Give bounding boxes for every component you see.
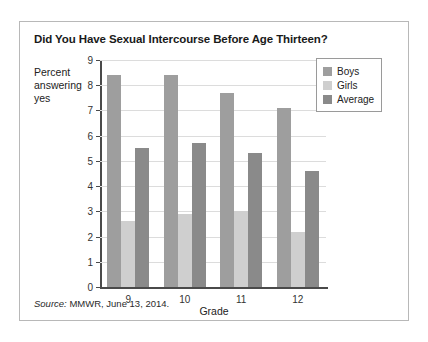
bar-average-grade-11 <box>248 153 262 287</box>
legend-label: Boys <box>337 66 359 77</box>
chart-figure-panel: Did You Have Sexual Intercourse Before A… <box>19 21 409 321</box>
y-tick-label: 3 <box>87 206 93 217</box>
source-label: Source: <box>34 298 67 309</box>
bar-boys-grade-10 <box>164 75 178 287</box>
bar-group: 9 <box>100 60 157 287</box>
bar-girls-grade-12 <box>291 232 305 287</box>
legend-label: Girls <box>337 80 358 91</box>
bar-boys-grade-12 <box>277 108 291 287</box>
bar-average-grade-12 <box>305 171 319 287</box>
bar-average-grade-9 <box>135 148 149 287</box>
bar-girls-grade-9 <box>121 221 135 287</box>
chart-legend: BoysGirlsAverage <box>316 58 382 112</box>
bar-group-bars <box>157 60 214 287</box>
y-tick-label: 0 <box>87 282 93 293</box>
bar-group-bars <box>213 60 270 287</box>
bar-average-grade-10 <box>192 143 206 287</box>
gridline <box>100 287 326 288</box>
bar-group: 11 <box>213 60 270 287</box>
x-tick-label: 12 <box>292 294 303 305</box>
legend-item-girls: Girls <box>323 78 374 92</box>
legend-label: Average <box>337 94 374 105</box>
plot-area: 0123456789 9101112 <box>100 60 326 287</box>
source-note: Source: MMWR, June 13, 2014. <box>34 298 169 309</box>
legend-swatch-icon <box>323 67 332 76</box>
x-tick-label: 11 <box>236 294 246 305</box>
bar-boys-grade-11 <box>220 93 234 287</box>
y-tick-label: 1 <box>87 256 93 267</box>
legend-swatch-icon <box>323 81 332 90</box>
y-tick-mark <box>96 287 100 288</box>
source-text: MMWR, June 13, 2014. <box>67 298 169 309</box>
x-tick-label: 10 <box>179 294 190 305</box>
legend-item-average: Average <box>323 92 374 106</box>
legend-item-boys: Boys <box>323 64 374 78</box>
bar-group-bars <box>100 60 157 287</box>
bar-boys-grade-9 <box>107 75 121 287</box>
y-tick-label: 4 <box>87 181 93 192</box>
chart-title: Did You Have Sexual Intercourse Before A… <box>34 33 328 45</box>
y-tick-label: 8 <box>87 80 93 91</box>
legend-swatch-icon <box>323 95 332 104</box>
y-tick-label: 7 <box>87 105 93 116</box>
y-tick-label: 6 <box>87 130 93 141</box>
y-tick-label: 2 <box>87 231 93 242</box>
bar-girls-grade-10 <box>178 214 192 287</box>
y-tick-label: 5 <box>87 155 93 166</box>
bar-girls-grade-11 <box>234 211 248 287</box>
y-tick-label: 9 <box>87 55 93 66</box>
bar-group: 10 <box>157 60 214 287</box>
